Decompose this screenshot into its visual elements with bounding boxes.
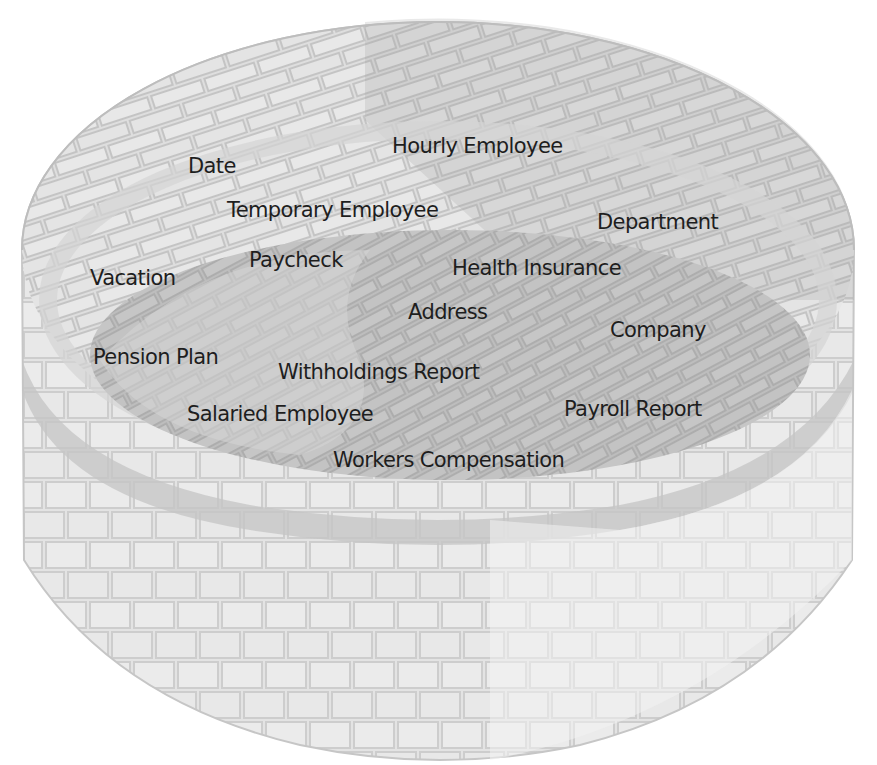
well-diagram: Hourly Employee Date Temporary Employee … bbox=[0, 0, 877, 765]
concept-label-withholdings-report: Withholdings Report bbox=[278, 362, 479, 383]
concept-label-pension-plan: Pension Plan bbox=[93, 347, 218, 368]
concept-label-workers-compensation: Workers Compensation bbox=[333, 450, 564, 471]
concept-label-hourly-employee: Hourly Employee bbox=[392, 136, 563, 157]
concept-label-health-insurance: Health Insurance bbox=[452, 258, 621, 279]
concept-label-paycheck: Paycheck bbox=[249, 250, 343, 271]
concept-label-address: Address bbox=[408, 302, 487, 323]
concept-label-department: Department bbox=[597, 212, 718, 233]
concept-label-payroll-report: Payroll Report bbox=[564, 399, 702, 420]
concept-label-company: Company bbox=[610, 320, 706, 341]
concept-label-vacation: Vacation bbox=[90, 268, 175, 289]
concept-label-salaried-employee: Salaried Employee bbox=[187, 404, 373, 425]
concept-label-temporary-employee: Temporary Employee bbox=[227, 200, 438, 221]
concept-label-date: Date bbox=[188, 156, 236, 177]
